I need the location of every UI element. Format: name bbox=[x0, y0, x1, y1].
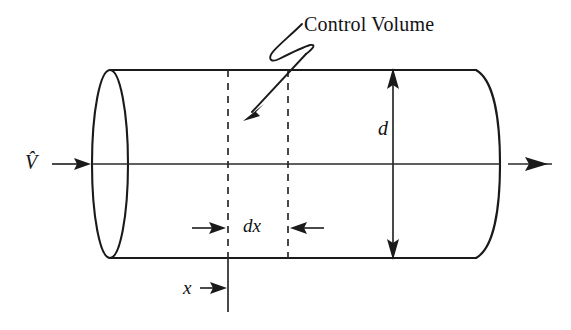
control-volume-leader bbox=[243, 24, 313, 121]
leader-shaft bbox=[252, 54, 306, 112]
figure-control-volume-pipe: Control Volume V̂ d dx x bbox=[0, 0, 571, 330]
label-axial-position: x bbox=[183, 278, 191, 297]
label-element-length: dx bbox=[243, 216, 261, 235]
outlet-flow-arrow bbox=[508, 157, 552, 171]
leader-arrow-head bbox=[243, 104, 264, 121]
diagram-canvas bbox=[0, 0, 571, 330]
x-dimension bbox=[200, 258, 228, 312]
label-inlet-velocity: V̂ bbox=[25, 152, 37, 172]
label-diameter: d bbox=[378, 118, 388, 138]
label-control-volume: Control Volume bbox=[304, 14, 434, 34]
inlet-flow-arrow bbox=[52, 158, 91, 170]
